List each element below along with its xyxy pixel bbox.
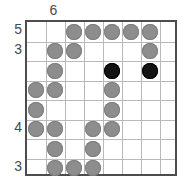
grid-cell-r1-c4[interactable]: [84, 22, 103, 41]
grid-cell-r4-c6[interactable]: [122, 81, 141, 100]
grid-cell-r5-c1[interactable]: [27, 100, 46, 119]
gray-stone-icon[interactable]: [142, 24, 158, 40]
puzzle-container: 6 5343: [0, 0, 186, 187]
gray-stone-icon[interactable]: [123, 24, 139, 40]
grid-cell-r8-c5[interactable]: [103, 159, 122, 178]
grid-cell-r1-c6[interactable]: [122, 22, 141, 41]
grid-cell-r7-c1[interactable]: [27, 139, 46, 158]
grid-cell-r3-c8[interactable]: [160, 61, 179, 80]
column-clue-2: 6: [44, 1, 63, 19]
gray-stone-icon[interactable]: [104, 121, 120, 137]
grid-cell-r2-c7[interactable]: [141, 42, 160, 61]
grid-cell-r3-c6[interactable]: [122, 61, 141, 80]
grid-cell-r5-c4[interactable]: [84, 100, 103, 119]
gray-stone-icon[interactable]: [66, 43, 82, 59]
gray-stone-icon[interactable]: [28, 82, 44, 98]
column-clue-6: [120, 1, 139, 19]
gray-stone-icon[interactable]: [66, 24, 82, 40]
grid-cell-r4-c7[interactable]: [141, 81, 160, 100]
grid-cell-r3-c3[interactable]: [65, 61, 84, 80]
gray-stone-icon[interactable]: [47, 63, 63, 79]
gray-stone-icon[interactable]: [85, 24, 101, 40]
grid-cell-r4-c8[interactable]: [160, 81, 179, 100]
grid-cell-r1-c8[interactable]: [160, 22, 179, 41]
row-clue-2: 3: [0, 40, 22, 59]
grid-cell-r7-c6[interactable]: [122, 139, 141, 158]
grid-cell-r7-c8[interactable]: [160, 139, 179, 158]
grid-cell-r6-c8[interactable]: [160, 120, 179, 139]
gray-stone-icon[interactable]: [85, 121, 101, 137]
puzzle-board[interactable]: [25, 20, 177, 176]
grid-cell-r3-c1[interactable]: [27, 61, 46, 80]
grid-cell-r6-c6[interactable]: [122, 120, 141, 139]
column-clue-7: [139, 1, 158, 19]
grid-cell-r3-c7[interactable]: [141, 61, 160, 80]
grid-cell-r2-c3[interactable]: [65, 42, 84, 61]
grid-cell-r4-c5[interactable]: [103, 81, 122, 100]
grid-cell-r2-c2[interactable]: [46, 42, 65, 61]
grid-cell-r8-c6[interactable]: [122, 159, 141, 178]
grid-cell-r7-c3[interactable]: [65, 139, 84, 158]
grid-cell-r1-c1[interactable]: [27, 22, 46, 41]
grid-cell-r2-c5[interactable]: [103, 42, 122, 61]
grid-cell-r5-c2[interactable]: [46, 100, 65, 119]
gray-stone-icon[interactable]: [47, 82, 63, 98]
grid-cell-r6-c7[interactable]: [141, 120, 160, 139]
grid-cell-r6-c4[interactable]: [84, 120, 103, 139]
grid-cell-r8-c1[interactable]: [27, 159, 46, 178]
grid-cell-r4-c2[interactable]: [46, 81, 65, 100]
grid-cell-r5-c5[interactable]: [103, 100, 122, 119]
row-clue-strip: 5343: [0, 20, 25, 176]
gray-stone-icon[interactable]: [47, 160, 63, 176]
grid-cell-r1-c5[interactable]: [103, 22, 122, 41]
grid-cell-r6-c2[interactable]: [46, 120, 65, 139]
grid-cell-r4-c4[interactable]: [84, 81, 103, 100]
row-clue-4: [0, 79, 22, 98]
gray-stone-icon[interactable]: [47, 141, 63, 157]
row-clue-3: [0, 59, 22, 78]
grid-cell-r8-c8[interactable]: [160, 159, 179, 178]
gray-stone-icon[interactable]: [47, 43, 63, 59]
row-clue-7: [0, 137, 22, 156]
gray-stone-icon[interactable]: [85, 141, 101, 157]
grid-cell-r3-c5[interactable]: [103, 61, 122, 80]
grid-cell-r8-c3[interactable]: [65, 159, 84, 178]
grid-cell-r2-c8[interactable]: [160, 42, 179, 61]
grid-cell-r3-c4[interactable]: [84, 61, 103, 80]
grid-cell-r6-c3[interactable]: [65, 120, 84, 139]
gray-stone-icon[interactable]: [28, 102, 44, 118]
grid-cell-r5-c6[interactable]: [122, 100, 141, 119]
grid-cell-r5-c7[interactable]: [141, 100, 160, 119]
grid-cell-r8-c2[interactable]: [46, 159, 65, 178]
grid-cell-r8-c4[interactable]: [84, 159, 103, 178]
grid-cell-r7-c2[interactable]: [46, 139, 65, 158]
grid-cell-r7-c7[interactable]: [141, 139, 160, 158]
gray-stone-icon[interactable]: [47, 121, 63, 137]
gray-stone-icon[interactable]: [85, 160, 101, 176]
grid-cell-r8-c7[interactable]: [141, 159, 160, 178]
grid-cell-r2-c4[interactable]: [84, 42, 103, 61]
grid-cell-r7-c4[interactable]: [84, 139, 103, 158]
grid-cell-r2-c6[interactable]: [122, 42, 141, 61]
gray-stone-icon[interactable]: [142, 43, 158, 59]
grid-cell-r3-c2[interactable]: [46, 61, 65, 80]
gray-stone-icon[interactable]: [104, 102, 120, 118]
grid-cell-r6-c1[interactable]: [27, 120, 46, 139]
grid-cell-r5-c8[interactable]: [160, 100, 179, 119]
gray-stone-icon[interactable]: [28, 121, 44, 137]
grid-cell-r5-c3[interactable]: [65, 100, 84, 119]
gray-stone-icon[interactable]: [104, 82, 120, 98]
grid-cell-r1-c7[interactable]: [141, 22, 160, 41]
gray-stone-icon[interactable]: [66, 160, 82, 176]
black-stone-icon[interactable]: [142, 63, 158, 79]
grid-cell-r7-c5[interactable]: [103, 139, 122, 158]
grid-cell-r2-c1[interactable]: [27, 42, 46, 61]
gray-stone-icon[interactable]: [104, 24, 120, 40]
column-clue-4: [82, 1, 101, 19]
grid-cell-r1-c2[interactable]: [46, 22, 65, 41]
black-stone-icon[interactable]: [104, 63, 120, 79]
grid-cell-r4-c1[interactable]: [27, 81, 46, 100]
grid-cell-r4-c3[interactable]: [65, 81, 84, 100]
grid-cell-r6-c5[interactable]: [103, 120, 122, 139]
grid-cell-r1-c3[interactable]: [65, 22, 84, 41]
